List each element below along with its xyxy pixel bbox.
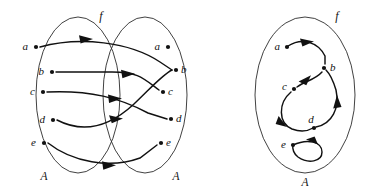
- arc-e-to-e-self-loop: [293, 137, 322, 162]
- graph-node-c-label: c: [282, 80, 287, 92]
- codomain-node-d: d: [169, 112, 182, 124]
- domain-node-c-label: c: [30, 85, 35, 97]
- domain-set-label: A: [39, 170, 48, 182]
- codomain-node-c-label: c: [168, 85, 173, 97]
- domain-node-b-label: b: [39, 65, 45, 77]
- graph-node-d-label: d: [308, 113, 314, 125]
- mapping-arc-e-to-e: [48, 143, 157, 170]
- codomain-set-label: A: [171, 170, 180, 182]
- domain-node-e-label: e: [31, 136, 36, 148]
- domain-node-d-label: d: [40, 113, 46, 125]
- codomain-node-c: c: [161, 85, 173, 97]
- domain-node-c: c: [30, 85, 45, 97]
- domain-node-a-label: a: [23, 40, 29, 52]
- mapping-arc-c-to-d: [47, 92, 167, 119]
- set-label: A: [300, 176, 309, 188]
- diagram-left: f A A a: [23, 9, 188, 182]
- domain-node-a: a: [23, 40, 39, 52]
- domain-node-e: e: [31, 136, 46, 148]
- diagram-right: f A a: [255, 9, 355, 188]
- codomain-node-a-label: a: [155, 40, 161, 52]
- graph-node-b: b: [322, 61, 336, 73]
- function-label-right: f: [335, 9, 340, 23]
- codomain-ellipse: [103, 17, 187, 173]
- codomain-node-e-label: e: [166, 136, 171, 148]
- function-diagram-figure: f A A a: [0, 0, 366, 192]
- codomain-node-b: b: [174, 63, 187, 75]
- graph-node-a: a: [275, 40, 290, 52]
- graph-node-a-label: a: [275, 40, 281, 52]
- codomain-node-e: e: [159, 136, 171, 148]
- codomain-node-b-label: b: [181, 63, 187, 75]
- domain-node-b: b: [39, 65, 55, 77]
- arc-a-to-b: [288, 38, 325, 64]
- codomain-node-a: a: [155, 40, 171, 52]
- codomain-node-d-label: d: [176, 112, 182, 124]
- graph-node-c: c: [282, 80, 296, 92]
- graph-node-e-label: e: [281, 138, 286, 150]
- graph-node-d: d: [308, 113, 316, 130]
- arc-b-to-c: [297, 72, 322, 87]
- domain-ellipse: [36, 17, 120, 173]
- function-label-left: f: [99, 9, 104, 23]
- mapping-arc-b-to-c: [56, 70, 159, 90]
- graph-node-b-label: b: [330, 61, 336, 73]
- domain-node-d: d: [40, 113, 56, 125]
- arc-d-to-b: [316, 70, 342, 127]
